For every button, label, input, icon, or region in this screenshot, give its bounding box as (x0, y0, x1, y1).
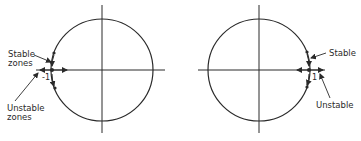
stability-diagram: Stable zones -1 Unstable zones Stable 1 … (0, 0, 361, 141)
right-arc-arrow-upper (307, 54, 309, 66)
left-point-label: -1 (42, 73, 50, 82)
right-point-label: 1 (312, 73, 317, 82)
left-unstable-leader (15, 73, 38, 101)
right-stable-label: Stable (329, 48, 356, 58)
right-panel: Stable 1 Unstable (198, 5, 356, 133)
left-arc-arrow-lower (52, 74, 54, 86)
left-stable-leader (34, 55, 51, 62)
left-stable-dot-upper (52, 51, 55, 54)
right-stable-leader (311, 53, 326, 58)
right-stable-dot-lower (305, 85, 308, 88)
right-unstable-leader (320, 74, 330, 98)
left-unstable-label-2: zones (7, 112, 32, 122)
right-unstable-label: Unstable (316, 100, 354, 110)
right-stable-dot-upper (305, 50, 308, 53)
left-stable-label-2: zones (8, 58, 33, 68)
diagram-svg: Stable zones -1 Unstable zones Stable 1 … (0, 0, 361, 141)
left-panel: Stable zones -1 Unstable zones (7, 5, 165, 133)
left-stable-dot-lower (53, 86, 56, 89)
